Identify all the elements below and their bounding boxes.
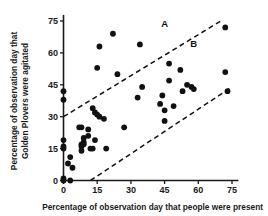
data-point: [90, 146, 96, 152]
x-tick-label: 45: [160, 185, 170, 195]
data-point: [157, 101, 163, 107]
data-point: [137, 41, 143, 47]
data-point: [191, 86, 197, 92]
y-tick-label: 0: [53, 176, 58, 186]
region-label-b: B: [190, 38, 197, 49]
data-point: [67, 154, 73, 160]
data-point: [222, 69, 228, 75]
x-axis-title: Percentage of observation day that peopl…: [42, 202, 263, 212]
data-point: [61, 146, 67, 152]
x-tick-label: 15: [92, 185, 102, 195]
data-point: [110, 31, 116, 37]
data-point: [67, 178, 73, 184]
data-point: [85, 133, 91, 139]
data-point: [139, 84, 145, 90]
data-point: [61, 97, 67, 103]
data-point: [162, 107, 168, 113]
data-point: [79, 148, 85, 154]
data-point: [162, 118, 168, 124]
data-point: [94, 65, 100, 71]
data-point: [159, 93, 165, 99]
data-point: [81, 141, 87, 147]
data-point: [115, 71, 121, 77]
data-point: [225, 88, 231, 94]
region-label-a: A: [161, 18, 168, 29]
data-point: [166, 78, 172, 84]
x-tick-label: 0: [61, 185, 66, 195]
reference-lines-group: [64, 21, 233, 181]
chart-canvas: 0153045607501530456075 AB Percentage of …: [0, 0, 268, 216]
data-point: [85, 127, 91, 133]
data-point: [65, 161, 71, 167]
data-point: [180, 88, 186, 94]
upper-boundary-line: [64, 21, 221, 117]
y-tick-label: 75: [48, 16, 58, 26]
data-point: [61, 178, 67, 184]
x-tick-label: 30: [126, 185, 136, 195]
data-point: [92, 137, 98, 143]
scatter-plot-figure: 0153045607501530456075 AB Percentage of …: [0, 0, 268, 216]
region-annotations-group: AB: [161, 18, 197, 48]
data-point: [121, 124, 127, 130]
data-point: [171, 103, 177, 109]
data-point: [166, 61, 172, 67]
y-tick-label: 45: [48, 80, 58, 90]
data-point: [177, 67, 183, 73]
data-point: [70, 165, 76, 171]
x-tick-label: 60: [193, 185, 203, 195]
y-tick-label: 15: [48, 144, 58, 154]
lower-boundary-line: [90, 87, 232, 181]
y-axis-title-line2: Golden Plovers were agitated: [20, 43, 30, 159]
y-tick-label: 30: [48, 112, 58, 122]
y-tick-label: 60: [48, 48, 58, 58]
data-point: [103, 146, 109, 152]
y-axis-title-line1: Percentage of observation day that: [9, 32, 19, 171]
x-tick-label: 75: [227, 185, 237, 195]
data-point: [61, 137, 67, 143]
data-point: [101, 116, 107, 122]
data-point: [79, 124, 85, 130]
axes-group: [64, 16, 238, 181]
data-point: [97, 44, 103, 50]
data-point: [135, 95, 141, 101]
data-point: [222, 24, 228, 30]
data-point: [61, 88, 67, 94]
